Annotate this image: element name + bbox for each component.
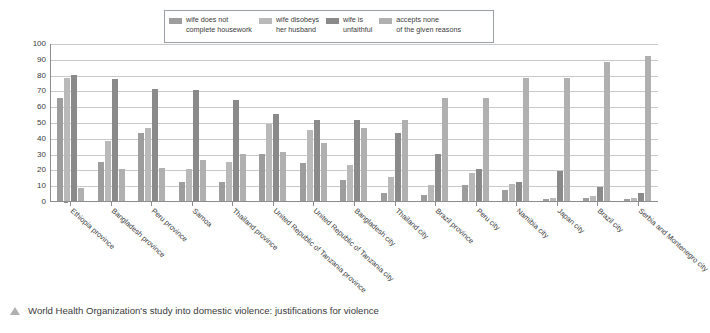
x-axis-tick-mark bbox=[232, 202, 233, 206]
bar-group bbox=[624, 44, 652, 201]
y-axis-tick-label: 80 bbox=[18, 72, 46, 80]
bar bbox=[442, 98, 448, 201]
bar bbox=[300, 163, 306, 201]
bar bbox=[152, 89, 158, 201]
bar bbox=[462, 185, 468, 201]
x-axis-tick-label: Namibia city bbox=[515, 207, 550, 240]
bar bbox=[361, 128, 367, 201]
bar bbox=[280, 152, 286, 201]
bar bbox=[226, 162, 232, 202]
bar bbox=[469, 173, 475, 201]
bar bbox=[233, 100, 239, 201]
bar bbox=[523, 78, 529, 201]
plot-area bbox=[50, 44, 658, 202]
bar-group bbox=[138, 44, 166, 201]
bar bbox=[645, 56, 651, 201]
bar-group bbox=[57, 44, 85, 201]
bar bbox=[564, 78, 570, 201]
legend-item: wife does not complete housework bbox=[169, 15, 252, 34]
legend-item-label: wife does not complete housework bbox=[186, 15, 252, 34]
triangle-up-icon bbox=[10, 307, 20, 315]
legend-swatch-icon bbox=[326, 18, 339, 24]
y-axis-tick-labels: 0102030405060708090100 bbox=[18, 38, 46, 206]
bar bbox=[604, 62, 610, 201]
x-axis-tick-mark bbox=[395, 202, 396, 206]
bar bbox=[266, 124, 272, 201]
x-axis-tick-mark bbox=[313, 202, 314, 206]
x-axis-tick-mark bbox=[516, 202, 517, 206]
bar bbox=[590, 196, 596, 201]
bar bbox=[219, 182, 225, 201]
x-axis-tick-mark bbox=[111, 202, 112, 206]
bar bbox=[354, 120, 360, 201]
x-axis-tick-label: Bangladesh city bbox=[353, 207, 397, 248]
bar bbox=[98, 162, 104, 202]
x-axis-tick-mark bbox=[192, 202, 193, 206]
x-axis-tick-labels: Ethiopia provinceBangladesh provincePeru… bbox=[50, 202, 658, 294]
bar bbox=[159, 168, 165, 201]
legend-item: accepts none of the given reasons bbox=[379, 15, 461, 34]
y-axis-tick-label: 40 bbox=[18, 135, 46, 143]
bar bbox=[597, 187, 603, 201]
bar-group bbox=[300, 44, 328, 201]
bar bbox=[388, 177, 394, 201]
bar-groups bbox=[51, 44, 658, 201]
legend-item-label: wife is unfaithful bbox=[343, 15, 372, 34]
bar bbox=[200, 160, 206, 201]
bar bbox=[476, 169, 482, 201]
bar bbox=[105, 141, 111, 201]
y-axis-tick-label: 100 bbox=[18, 40, 46, 48]
bar bbox=[638, 193, 644, 201]
bar bbox=[340, 180, 346, 201]
bar bbox=[321, 143, 327, 201]
bar bbox=[381, 193, 387, 201]
bar bbox=[347, 165, 353, 201]
x-axis-tick-label: United Republic of Tanzania city bbox=[312, 207, 395, 283]
bar-group bbox=[179, 44, 207, 201]
bar bbox=[583, 198, 589, 201]
bar-group bbox=[462, 44, 490, 201]
bar bbox=[502, 190, 508, 201]
bar bbox=[435, 154, 441, 201]
bar bbox=[119, 169, 125, 201]
legend-swatch-icon bbox=[259, 18, 272, 24]
bar-group bbox=[219, 44, 247, 201]
bar-group bbox=[583, 44, 611, 201]
x-axis-tick-mark bbox=[70, 202, 71, 206]
bar bbox=[428, 185, 434, 201]
bar-group bbox=[98, 44, 126, 201]
bar-group bbox=[259, 44, 287, 201]
bar bbox=[307, 130, 313, 201]
bar bbox=[64, 78, 70, 201]
bar-group bbox=[381, 44, 409, 201]
x-axis-tick-label: Samoa bbox=[191, 207, 214, 229]
bar bbox=[402, 120, 408, 201]
bar bbox=[395, 133, 401, 201]
x-axis-tick-mark bbox=[597, 202, 598, 206]
legend-swatch-icon bbox=[169, 18, 182, 24]
y-axis-tick-label: 20 bbox=[18, 166, 46, 174]
bar bbox=[193, 90, 199, 201]
x-axis-tick-mark bbox=[354, 202, 355, 206]
bar bbox=[112, 79, 118, 201]
legend-item: wife is unfaithful bbox=[326, 15, 372, 34]
bar bbox=[186, 169, 192, 201]
bar bbox=[624, 199, 630, 201]
bar-group bbox=[421, 44, 449, 201]
y-axis-tick-label: 30 bbox=[18, 151, 46, 159]
x-axis-tick-mark bbox=[151, 202, 152, 206]
bar bbox=[145, 128, 151, 201]
x-axis-tick-mark bbox=[638, 202, 639, 206]
bar bbox=[550, 198, 556, 201]
bar bbox=[240, 154, 246, 201]
y-axis-tick-label: 0 bbox=[18, 198, 46, 206]
y-axis-tick-label: 70 bbox=[18, 87, 46, 95]
chart-legend: wife does not complete houseworkwife dis… bbox=[164, 10, 494, 43]
x-axis-tick-label: Brazil city bbox=[596, 207, 625, 234]
x-axis-tick-mark bbox=[273, 202, 274, 206]
bar bbox=[138, 133, 144, 201]
x-axis-tick-mark bbox=[557, 202, 558, 206]
bar bbox=[557, 171, 563, 201]
x-axis-tick-label: Peru province bbox=[150, 207, 189, 243]
legend-item-label: wife disobeys her husband bbox=[276, 15, 319, 34]
